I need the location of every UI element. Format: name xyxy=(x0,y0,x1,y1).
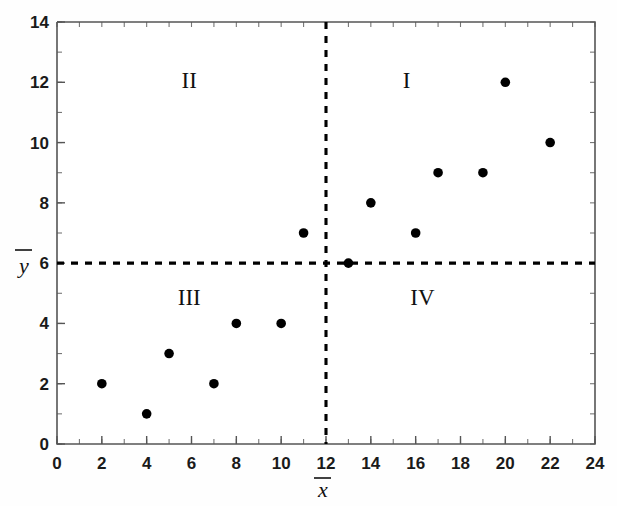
y-tick-label: 2 xyxy=(40,375,49,394)
y-tick-label: 12 xyxy=(30,73,49,92)
x-tick-label: 18 xyxy=(451,454,470,473)
x-tick-label: 6 xyxy=(187,454,196,473)
quadrant-label-II: II xyxy=(182,68,197,93)
y-axis-title: y xyxy=(15,250,32,278)
y-axis-tick-labels: 02468101214 xyxy=(30,13,49,454)
data-point xyxy=(276,319,286,329)
y-tick-label: 4 xyxy=(40,314,50,333)
data-point xyxy=(366,198,376,208)
x-tick-label: 8 xyxy=(232,454,241,473)
quadrant-label-I: I xyxy=(403,68,411,93)
data-point xyxy=(209,379,219,389)
quadrant-label-III: III xyxy=(178,285,201,310)
x-tick-label: 24 xyxy=(586,454,605,473)
y-tick-label: 0 xyxy=(40,435,49,454)
data-point xyxy=(164,349,174,359)
x-tick-label: 2 xyxy=(97,454,106,473)
data-point xyxy=(344,258,354,268)
x-axis-title: x xyxy=(314,477,331,502)
data-point xyxy=(97,379,107,389)
data-point xyxy=(501,77,511,87)
x-axis-tick-labels: 024681012141618202224 xyxy=(52,454,605,473)
data-point xyxy=(411,228,421,238)
quadrant-scatter-chart: 024681012141618202224 02468101214 IIIIII… xyxy=(0,0,617,506)
x-tick-label: 22 xyxy=(541,454,560,473)
data-point xyxy=(299,228,309,238)
x-tick-label: 4 xyxy=(142,454,152,473)
quadrant-label-IV: IV xyxy=(410,285,435,310)
x-axis-title-text: x xyxy=(317,477,328,502)
y-tick-label: 14 xyxy=(30,13,49,32)
data-point xyxy=(478,168,488,178)
y-axis-title-text: y xyxy=(17,253,29,278)
x-tick-label: 10 xyxy=(272,454,291,473)
y-tick-label: 6 xyxy=(40,254,49,273)
scatter-plot-figure: 024681012141618202224 02468101214 IIIIII… xyxy=(0,0,617,506)
x-tick-label: 14 xyxy=(361,454,380,473)
x-tick-label: 16 xyxy=(406,454,425,473)
data-point xyxy=(142,409,152,419)
x-tick-label: 0 xyxy=(52,454,61,473)
data-point xyxy=(433,168,443,178)
x-tick-label: 12 xyxy=(317,454,336,473)
y-tick-label: 8 xyxy=(40,194,49,213)
data-point xyxy=(232,319,242,329)
y-tick-label: 10 xyxy=(30,134,49,153)
data-point xyxy=(545,138,555,148)
x-tick-label: 20 xyxy=(496,454,515,473)
